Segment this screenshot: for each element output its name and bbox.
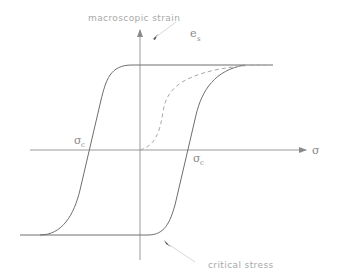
critical-stress-annotation: critical stress (208, 260, 274, 270)
leader-top (156, 22, 176, 37)
pointer-arrow-bottom (164, 240, 171, 247)
saturation-label: e (190, 27, 197, 40)
critical-stress-right-subscript: c (200, 159, 204, 167)
virgin-curve (140, 65, 265, 150)
critical-stress-left-subscript: c (81, 141, 85, 149)
pointer-arrow-top (153, 34, 158, 40)
leader-bottom (168, 244, 195, 262)
x-axis-label: σ (312, 144, 320, 157)
hysteresis-diagram: macroscopic strain e s σ σ c σ c critica… (0, 0, 340, 279)
saturation-subscript: s (197, 35, 201, 43)
y-axis-label: macroscopic strain (88, 13, 180, 23)
